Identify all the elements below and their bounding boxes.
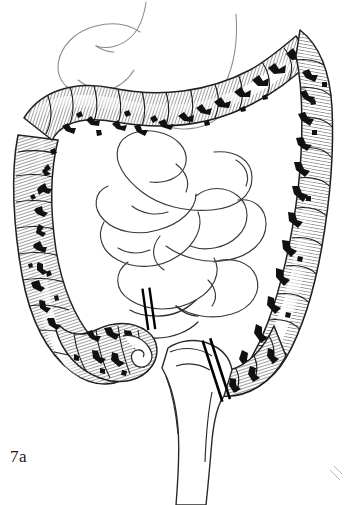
stomach xyxy=(58,2,146,94)
rectum xyxy=(162,341,232,505)
small-intestine xyxy=(96,131,266,317)
stray-scan-mark xyxy=(330,466,342,480)
colon-illustration xyxy=(0,0,345,505)
figure-container: 7a xyxy=(0,0,345,505)
figure-caption: 7a xyxy=(10,447,27,467)
transverse-colon xyxy=(0,20,345,160)
